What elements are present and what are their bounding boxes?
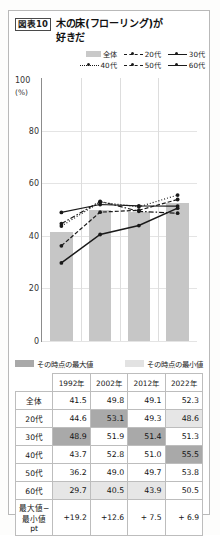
line-series-layer [42,78,197,341]
key-max: その時点の最大値 [15,358,93,369]
table-header: 1992年2002年2012年2022年 [16,374,203,392]
figure-header: 図表10 木の床(フローリング)が 好きだ [9,11,209,44]
data-point [59,210,63,214]
table-cell: 43.7 [53,446,90,464]
table-cell: 52.8 [90,446,127,464]
table-cell: 51.4 [128,428,165,446]
table-cell: 51.0 [128,446,165,464]
table-cell: 53.1 [90,410,127,428]
legend-item-20s: 20代 [124,49,161,59]
row-header: 60代 [16,482,53,500]
legend-label: 全体 [103,49,117,59]
data-point [176,211,180,215]
table-cell: 51.9 [90,428,127,446]
table-cell: 49.1 [128,392,165,410]
data-table: 1992年2002年2012年2022年 全体41.549.849.152.32… [15,373,203,536]
table-cell: 50.5 [165,482,202,500]
table-row-diff: 最大値−最小値pt+19.2+12.6+ 7.5+ 6.9 [16,500,203,536]
gridline [42,341,197,342]
column-header-4: 2022年 [165,374,202,392]
data-point [137,205,141,209]
table-cell: 53.8 [165,464,202,482]
row-header: 50代 [16,464,53,482]
column-header-1: 1992年 [53,374,90,392]
table-cell: 48.6 [165,410,202,428]
y-axis-top-label: 100 [15,76,30,85]
legend-solid-thick-line-icon [168,62,187,69]
table-cell: 49.0 [90,464,127,482]
table-corner-cell [16,374,53,392]
y-axis-tick-label: 20 [29,284,39,293]
table-cell: 43.9 [128,482,165,500]
column-header-3: 2012年 [128,374,165,392]
line-30代 [61,205,177,213]
legend-label: 60代 [189,60,205,70]
data-point [137,224,141,228]
title-line-1: 木の床(フローリング)が [56,17,163,31]
table-row: 全体41.549.849.152.3 [16,392,203,410]
table-header-row: 1992年2002年2012年2022年 [16,374,203,392]
table-cell: 49.8 [90,392,127,410]
legend-dotted-line-icon [80,62,99,69]
row-header: 30代 [16,428,53,446]
figure-number-tag: 図表10 [15,18,51,31]
data-point [137,208,141,212]
legend-swatch-icon [86,51,101,57]
data-point [176,198,180,202]
chart-area: 100 (%) 806040200 [13,74,203,356]
data-point [59,261,63,265]
legend-item-30s: 30代 [168,49,205,59]
legend-dash-line-icon [124,62,143,69]
legend-label: 50代 [145,60,161,70]
table-cell: 48.9 [53,428,90,446]
table-cell: 44.6 [53,410,90,428]
figure-card: 図表10 木の床(フローリング)が 好きだ 全体 20代 30代 40代 [8,10,210,515]
line-60代 [61,208,177,263]
y-axis-tick-label: 0 [34,337,39,346]
data-point [98,233,102,237]
key-min-label: その時点の最小値 [147,358,203,369]
min-swatch-icon [125,360,144,367]
table-cell: 29.7 [53,482,90,500]
row-header: 全体 [16,392,53,410]
data-point [98,210,102,214]
key-max-label: その時点の最大値 [37,358,93,369]
table-cell: 40.5 [90,482,127,500]
table-cell-diff: +19.2 [53,500,90,536]
legend-label: 20代 [145,49,161,59]
chart-legend: 全体 20代 30代 40代 50代 60代 [9,49,205,70]
table-cell: 49.7 [128,464,165,482]
legend-dash-dot-line-icon [124,51,143,58]
table-cell: 55.5 [165,446,202,464]
legend-item-50s: 50代 [124,60,161,70]
data-point [59,224,63,228]
table-cell: 52.3 [165,392,202,410]
y-axis-tick-label: 60 [29,179,39,188]
table-cell-diff: + 7.5 [128,500,165,536]
legend-item-60s: 60代 [168,60,205,70]
legend-solid-line-icon [168,51,187,58]
y-axis-tick-label: 40 [29,231,39,240]
key-min: その時点の最小値 [125,358,203,369]
table-body: 全体41.549.849.152.320代44.653.149.348.630代… [16,392,203,536]
table-cell: 36.2 [53,464,90,482]
column-header-2: 2002年 [90,374,127,392]
legend-label: 40代 [101,60,117,70]
table-row: 20代44.653.149.348.6 [16,410,203,428]
data-point [176,193,180,197]
page-title: 木の床(フローリング)が 好きだ [56,17,163,44]
table-row: 40代43.752.851.055.5 [16,446,203,464]
table-row: 30代48.951.951.451.3 [16,428,203,446]
row-header-diff: 最大値−最小値pt [16,500,53,536]
title-line-2: 好きだ [56,31,163,45]
table-cell: 49.3 [128,410,165,428]
max-min-key: その時点の最大値 その時点の最小値 [15,358,203,369]
data-point [59,244,63,248]
legend-item-40s: 40代 [80,60,117,70]
row-header: 40代 [16,446,53,464]
table-cell-diff: + 6.9 [165,500,202,536]
row-header: 20代 [16,410,53,428]
table-cell: 51.3 [165,428,202,446]
max-swatch-icon [15,360,34,367]
